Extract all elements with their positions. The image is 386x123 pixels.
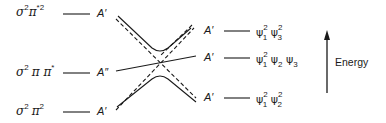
right-config-middle: ψ21 ψ2 ψ3: [256, 54, 298, 65]
correlation-diagram: σ2π*2 σ2 π π* σ2 π2 A′ A″ A′ A′ A′ A′ ψ2…: [0, 0, 386, 123]
right-symmetry-middle: A′: [204, 52, 213, 63]
lower-adiabatic-curve: [117, 76, 196, 107]
right-symmetry-bottom: A′: [204, 92, 213, 103]
left-config-bottom: σ2 π2: [16, 105, 44, 117]
upper-right-dashed-segment: [160, 25, 192, 56]
left-config-middle: σ2 π π*: [16, 66, 54, 78]
energy-arrow-head-icon: [324, 30, 330, 40]
left-config-top: σ2π*2: [16, 6, 44, 18]
left-symmetry-bottom: A′: [97, 106, 106, 117]
left-symmetry-middle: A″: [97, 67, 108, 78]
right-config-bottom: ψ21 ψ22: [256, 94, 282, 105]
upper-adiabatic-curve: [118, 16, 191, 51]
correlation-lines: [0, 0, 386, 123]
energy-axis-label: Energy: [335, 57, 368, 68]
right-symmetry-top: A′: [204, 25, 213, 36]
left-symmetry-top: A′: [97, 8, 106, 19]
a-double-prime-line: [116, 56, 196, 71]
right-config-top: ψ21 ψ23: [256, 27, 282, 38]
